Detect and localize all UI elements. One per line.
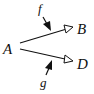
open-arrowhead-d-icon	[64, 55, 73, 63]
f-filled-arrowhead-icon	[43, 21, 51, 31]
label-g: g	[40, 75, 47, 90]
g-filled-arrowhead-icon	[45, 60, 52, 70]
edge-a-to-b	[20, 30, 65, 44]
node-b: B	[77, 21, 86, 37]
node-a: A	[2, 41, 13, 57]
node-d: D	[76, 56, 88, 72]
g-arrow-shaft	[46, 68, 49, 75]
diagram-canvas: A B D f g	[0, 0, 94, 94]
edge-a-to-d	[20, 49, 65, 59]
open-arrowhead-b-icon	[64, 25, 73, 33]
label-f: f	[38, 1, 44, 16]
